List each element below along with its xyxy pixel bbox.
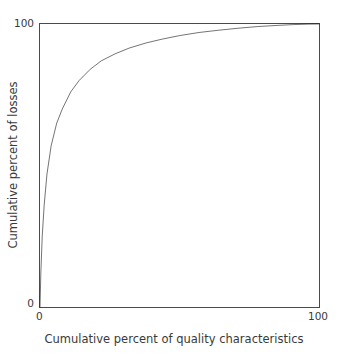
plot-area (39, 23, 320, 308)
y-axis-tick-0: 0 (27, 298, 34, 309)
x-axis-tick-0: 0 (36, 311, 43, 322)
chart-figure: 100 0 0 100 Cumulative percent of qualit… (0, 0, 348, 354)
x-axis-title: Cumulative percent of quality characteri… (0, 334, 348, 346)
cumulative-loss-curve (40, 24, 319, 307)
y-axis-title: Cumulative percent of losses (8, 81, 20, 248)
y-axis-tick-100: 100 (14, 18, 34, 29)
x-axis-tick-100: 100 (308, 311, 328, 322)
